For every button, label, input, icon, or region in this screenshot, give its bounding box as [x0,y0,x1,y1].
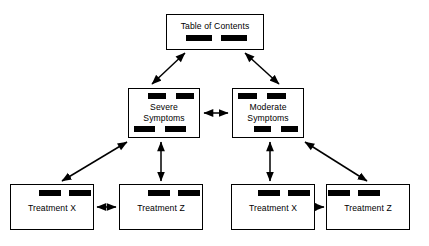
node-treatment-x-right[interactable]: Treatment X [231,184,315,230]
content-bar [39,190,61,196]
diagram-canvas: Table of Contents Severe Symptoms Modera… [0,0,429,246]
content-bar [148,190,170,196]
connector-toc-severe [152,53,185,84]
content-bar [165,126,186,132]
content-bar [358,190,380,196]
connector-severe-treatmentx-left [62,142,127,181]
node-severe-symptoms[interactable]: Severe Symptoms [128,88,200,138]
content-bar-group [232,190,314,196]
node-moderate-symptoms[interactable]: Moderate Symptoms [232,88,304,138]
node-label: Moderate Symptoms [247,102,288,123]
content-bar-group [134,93,194,99]
connector-toc-moderate [245,53,279,84]
content-bar-group [134,126,194,132]
node-treatment-z-right[interactable]: Treatment Z [326,184,410,230]
content-bar-group [327,190,409,196]
content-bar-group [238,126,298,132]
node-label: Severe Symptoms [143,102,184,123]
content-bar [176,93,194,99]
content-bar-group [120,190,202,196]
node-label: Table of Contents [181,21,250,31]
content-bar [221,35,247,41]
node-label: Treatment X [249,203,297,213]
content-bar [134,126,155,132]
content-bar [238,93,257,99]
content-bar-group [11,190,93,196]
node-label: Treatment X [28,203,76,213]
content-bar [288,190,310,196]
node-table-of-contents[interactable]: Table of Contents [166,14,264,50]
content-bar-group [167,35,263,41]
content-bar [328,190,350,196]
content-bar [148,93,166,99]
node-treatment-x-left[interactable]: Treatment X [10,184,94,230]
content-bar [281,126,298,132]
connector-moderate-treatmentz-right [305,142,367,181]
content-bar [254,126,271,132]
node-label: Treatment Z [137,203,185,213]
node-label: Treatment Z [344,203,392,213]
content-bar [186,35,212,41]
content-bar [258,190,280,196]
content-bar [178,190,200,196]
content-bar [69,190,91,196]
content-bar-group [238,93,298,99]
node-treatment-z-left[interactable]: Treatment Z [119,184,203,230]
content-bar [267,93,286,99]
